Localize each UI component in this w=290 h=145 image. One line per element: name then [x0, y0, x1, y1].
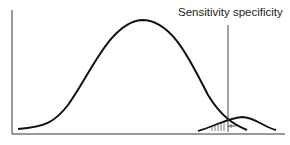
large-bell-curve: [18, 20, 247, 130]
sensitivity-specificity-label: Sensitivity specificity: [178, 6, 283, 18]
diagram-canvas: [0, 0, 290, 145]
